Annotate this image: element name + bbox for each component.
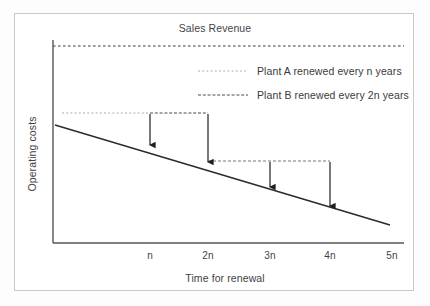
legend-label-plant-a: Plant A renewed every n years bbox=[257, 65, 402, 77]
chart-figure: Sales Revenue Operating costs Time for r… bbox=[0, 0, 430, 306]
x-tick-label-4n: 4n bbox=[315, 250, 345, 261]
y-axis-label: Operating costs bbox=[26, 94, 38, 214]
x-tick-label-n: n bbox=[135, 250, 165, 261]
x-tick-label-5n: 5n bbox=[377, 250, 407, 261]
x-tick-label-3n: 3n bbox=[255, 250, 285, 261]
operating-costs-trend-line bbox=[55, 125, 390, 225]
x-tick-label-2n: 2n bbox=[193, 250, 223, 261]
legend-label-plant-b: Plant B renewed every 2n years bbox=[257, 89, 409, 101]
x-axis-label: Time for renewal bbox=[100, 272, 350, 284]
chart-title: Sales Revenue bbox=[0, 22, 430, 34]
